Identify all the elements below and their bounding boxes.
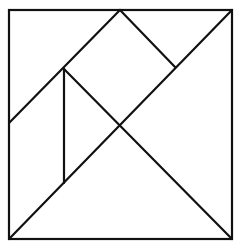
top-mid-to-diagonal-line <box>120 10 175 67</box>
tangram-lines <box>9 10 232 239</box>
center-to-bottom-right-line <box>64 69 232 239</box>
tangram-diagram <box>0 0 241 252</box>
